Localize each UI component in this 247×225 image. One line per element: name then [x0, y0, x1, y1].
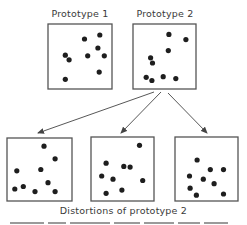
arrow-to-distortion-1 [38, 92, 154, 133]
distortion-3-dot [201, 177, 206, 182]
arrow-to-distortion-2 [121, 92, 161, 133]
prototype-1-panel [48, 24, 112, 89]
distortion-3-dot [188, 186, 193, 191]
distortion-1-dot [21, 184, 26, 189]
cropped-caption-fragment [10, 220, 238, 225]
distortion-1-dot [53, 189, 58, 194]
distortion-3-panel [175, 137, 238, 201]
distortions-label: Distortions of prototype 2 [0, 205, 247, 216]
prototype-2-dot [173, 76, 178, 81]
distortion-3-dot [194, 193, 199, 198]
distortion-1-dot [45, 180, 50, 185]
prototype-2-dot [166, 32, 171, 37]
prototype-2-dot [148, 55, 153, 60]
prototype-1-dot [82, 36, 87, 41]
prototype-1-dot [67, 57, 72, 62]
prototype-1-dot [95, 45, 100, 50]
prototype-1-dot [97, 32, 102, 37]
prototype-1-dot [102, 53, 107, 58]
prototype-2-dot [166, 48, 171, 53]
prototype-2-dot [183, 37, 188, 42]
prototype-2-dot [161, 74, 166, 79]
distortion-2-dot [104, 191, 109, 196]
prototype-1-dot [97, 70, 102, 75]
distortion-1-dot [32, 189, 37, 194]
distortion-2-dot [128, 165, 133, 170]
distortion-2-dot [99, 173, 104, 178]
distortion-3-dot [212, 181, 217, 186]
distortion-2-panel [91, 137, 154, 201]
distortion-3-box [175, 137, 238, 201]
panels-layer [7, 24, 238, 201]
distortion-1-dot [41, 144, 46, 149]
prototype-1-dot [63, 53, 68, 58]
distortion-2-dot [137, 143, 142, 148]
prototype-1-dot [85, 53, 90, 58]
distortion-2-dot [104, 161, 109, 166]
arrow-to-distortion-3 [168, 93, 207, 133]
distortion-3-dot [221, 167, 226, 172]
distortion-1-dot [38, 167, 43, 172]
distortion-3-dot [208, 167, 213, 172]
prototype-2-panel [133, 24, 196, 89]
distortion-1-dot [12, 186, 17, 191]
prototype-2-dot [144, 75, 149, 80]
distortion-3-dot [187, 173, 192, 178]
distortion-2-dot [119, 188, 124, 193]
distortion-3-dot [221, 191, 226, 196]
prototype-distortion-diagram [0, 0, 247, 225]
prototype-2-dot [150, 60, 155, 65]
distortion-2-dot [140, 178, 145, 183]
prototype-1-dot [63, 77, 68, 82]
distortion-2-dot [110, 177, 115, 182]
distortion-1-panel [7, 138, 72, 201]
distortion-1-dot [14, 168, 19, 173]
prototype-2-dot [149, 78, 154, 83]
prototype-2-box [133, 24, 196, 89]
distortion-1-dot [53, 156, 58, 161]
arrows-layer [38, 92, 207, 133]
distortion-3-dot [195, 157, 200, 162]
distortion-2-dot [121, 164, 126, 169]
